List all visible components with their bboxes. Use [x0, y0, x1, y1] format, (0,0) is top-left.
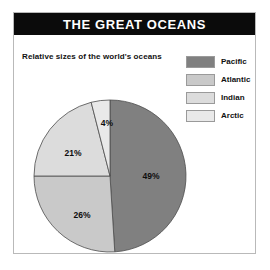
pie-chart-svg: 49% 26% 21% 4%: [14, 35, 255, 253]
pie-chart: 49% 26% 21% 4%: [14, 35, 255, 253]
screenshot-root: THE GREAT OCEANS Relative sizes of the w…: [0, 0, 270, 270]
chart-title-bar: THE GREAT OCEANS: [14, 13, 255, 35]
pie-label-atlantic: 26%: [73, 210, 90, 220]
pie-label-pacific: 49%: [142, 171, 159, 181]
page-title: THE GREAT OCEANS: [63, 17, 206, 32]
pie-label-indian: 21%: [64, 148, 81, 158]
chart-card: THE GREAT OCEANS Relative sizes of the w…: [13, 12, 256, 254]
chart-body: Relative sizes of the world's oceans Pac…: [14, 35, 255, 253]
pie-label-arctic: 4%: [101, 118, 114, 128]
